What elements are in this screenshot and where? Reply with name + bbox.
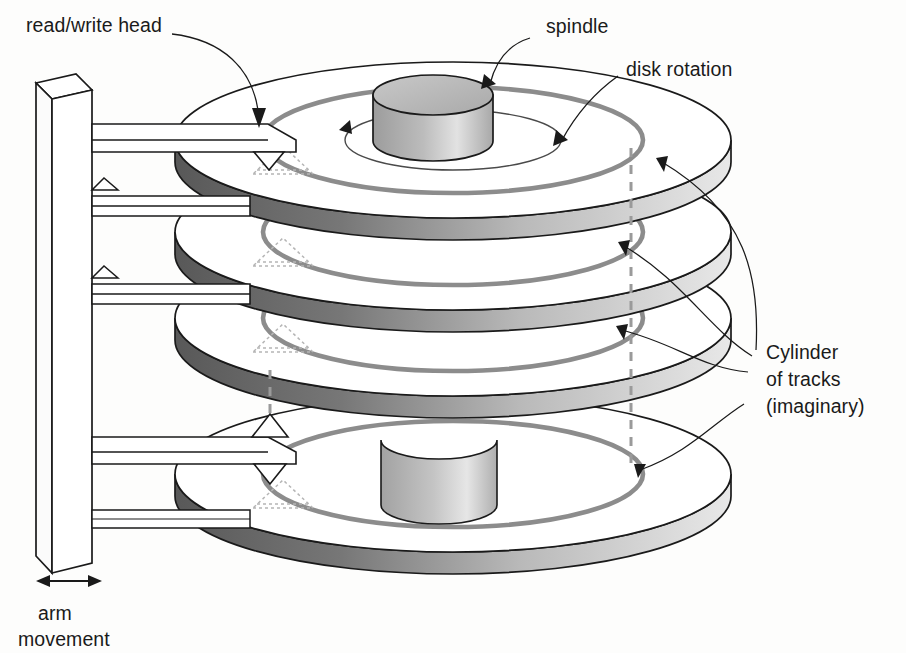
actuator-left-face [36,83,52,573]
spindle-hub-top [373,75,493,115]
label-cylinder-line3: (imaginary) [766,395,865,417]
label-cylinder-line2: of tracks [766,368,841,390]
label-read-write-head: read/write head [26,14,162,36]
label-arm-movement-line2: movement [18,628,110,650]
label-arm-movement-line1: arm [38,602,72,624]
arm-rails-lower [92,510,250,528]
arm-4-body [92,437,296,464]
spindle-hub [373,75,493,161]
actuator-carriage[interactable] [36,74,92,573]
arm-1-body [92,124,296,152]
label-cylinder-line1: Cylinder [766,341,839,363]
label-disk-rotation: disk rotation [626,58,732,80]
disk-drive-diagram: read/write head spindle disk rotation Cy… [0,0,906,653]
actuator-right-face [52,90,92,573]
diagram-canvas: read/write head spindle disk rotation Cy… [0,0,906,653]
label-spindle: spindle [546,15,609,37]
